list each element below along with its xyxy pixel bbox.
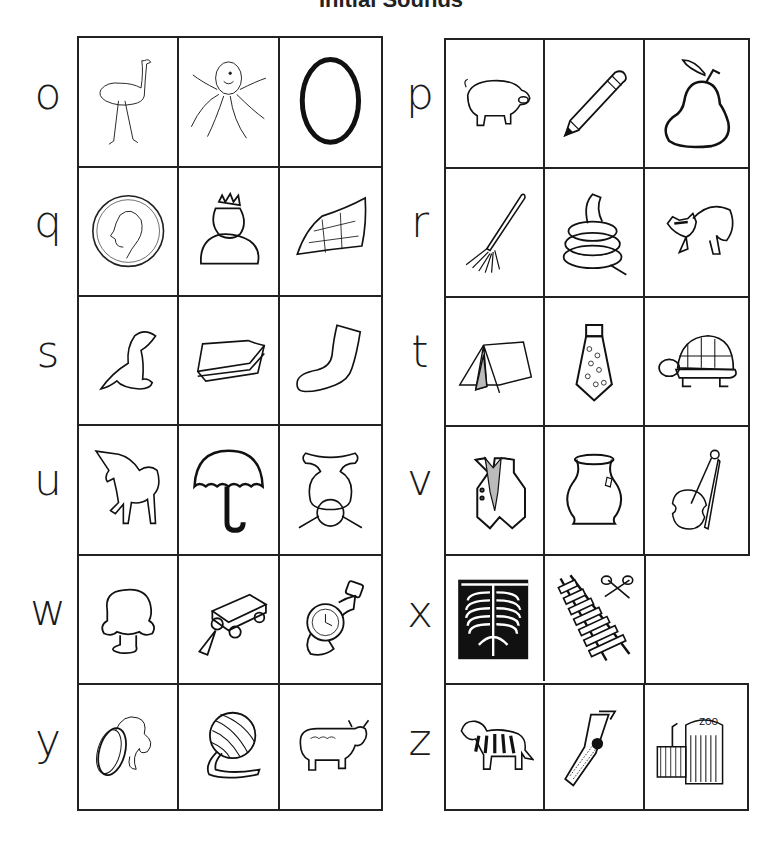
picture-cell-upside-down [280, 426, 381, 556]
letter-z: z [395, 718, 445, 762]
picture-cell-octopus [179, 38, 280, 168]
quilt-icon [289, 179, 372, 283]
pencil-icon [554, 51, 634, 155]
picture-cell-rake [446, 169, 545, 298]
picture-cell-wig [79, 556, 179, 685]
picture-cell-zipper [545, 685, 645, 809]
sandwich-icon [188, 308, 269, 412]
picture-cell-xylophone [545, 554, 645, 681]
letter-r: r [395, 200, 445, 244]
xylophone-icon [554, 565, 636, 669]
yo-yo-icon [88, 696, 168, 798]
picture-cell-zoo: ZOO [645, 685, 747, 809]
pear-icon [654, 51, 738, 155]
umbrella-icon [188, 438, 269, 543]
letter-w: w [23, 588, 73, 632]
picture-cell-vase [545, 427, 645, 554]
picture-cell-pig [446, 40, 545, 169]
picture-cell-quilt [280, 168, 381, 297]
rake-icon [455, 180, 535, 284]
picture-cell-quarter [79, 168, 179, 297]
picture-cell-watch [280, 556, 381, 685]
zoo-icon: ZOO [654, 696, 738, 798]
letter-p: p [395, 72, 445, 116]
vest-icon [455, 438, 535, 542]
picture-cell-pear [645, 40, 748, 169]
picture-cell-violin [645, 427, 748, 554]
picture-cell-queen [179, 168, 280, 297]
picture-cell-yarn [179, 685, 280, 809]
seal-icon [88, 308, 168, 412]
picture-cell-wagon [179, 556, 280, 685]
picture-cell-sandwich [179, 297, 280, 426]
picture-cell-ostrich [79, 38, 179, 168]
wagon-icon [188, 567, 269, 671]
rope-icon [554, 180, 634, 284]
watch-icon [289, 567, 372, 671]
letter-u: u [23, 458, 73, 502]
picture-cell-yak [280, 685, 381, 809]
picture-cell-seal [79, 297, 179, 426]
x-ray-icon [455, 565, 535, 669]
letter-o: o [23, 72, 73, 116]
ostrich-icon [88, 50, 168, 155]
letter-x: x [395, 590, 445, 634]
tie-icon [554, 309, 634, 413]
yarn-ball-icon [188, 696, 269, 798]
zebra-icon [455, 696, 535, 798]
octopus-icon [188, 50, 269, 155]
picture-cell-vest [446, 427, 545, 554]
violin-icon [654, 438, 738, 542]
letter-t: t [395, 330, 445, 374]
left-picture-grid [77, 36, 383, 811]
picture-cell-x-ray [446, 554, 545, 681]
picture-cell-unicorn [79, 426, 179, 556]
tent-icon [455, 309, 535, 413]
letter-s: s [23, 330, 73, 374]
picture-cell-sock [280, 297, 381, 426]
picture-cell-oval [280, 38, 381, 168]
picture-cell-raccoon [645, 169, 748, 298]
z-row-grid: ZOO [444, 683, 749, 811]
picture-cell-turtle [645, 298, 748, 427]
raccoon-icon [654, 180, 738, 284]
letter-q: q [23, 200, 73, 244]
page-title: Initial Sounds [0, 0, 782, 13]
zoo-sign-text: ZOO [699, 717, 718, 727]
letter-v: v [395, 458, 445, 502]
sock-icon [289, 308, 372, 412]
picture-cell-umbrella [179, 426, 280, 556]
wig-icon [88, 567, 168, 671]
zipper-icon [554, 696, 634, 798]
picture-cell-pencil [545, 40, 645, 169]
x-row-grid [444, 554, 646, 685]
unicorn-icon [88, 438, 168, 543]
pig-icon [455, 51, 535, 155]
picture-cell-rope [545, 169, 645, 298]
queen-icon [188, 179, 269, 283]
right-picture-grid [444, 38, 750, 556]
upside-down-monkey-icon [289, 438, 372, 543]
picture-cell-yo-yo [79, 685, 179, 809]
letter-y: y [23, 718, 73, 762]
picture-cell-tie [545, 298, 645, 427]
yak-icon [289, 696, 372, 798]
picture-cell-zebra [446, 685, 545, 809]
turtle-icon [654, 309, 738, 413]
oval-icon [289, 50, 372, 155]
picture-cell-tent [446, 298, 545, 427]
vase-icon [554, 438, 634, 542]
quarter-icon [88, 179, 168, 283]
